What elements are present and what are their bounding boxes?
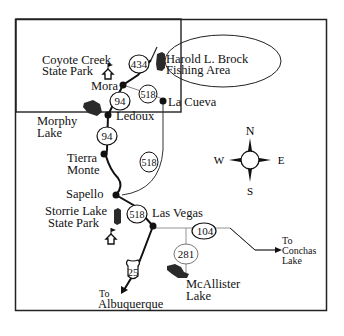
- label-storrie-2: State Park: [48, 217, 99, 229]
- albuquerque-arrow: [121, 286, 128, 294]
- harold-lake-icon: [156, 52, 165, 71]
- compass-w: W: [214, 154, 225, 166]
- shield-518-north: 518: [139, 85, 157, 103]
- label-ledoux: Ledoux: [116, 110, 154, 122]
- i25-line: [124, 226, 153, 290]
- compass-rose-icon: [229, 138, 271, 182]
- svg-text:94: 94: [115, 95, 127, 107]
- shield-518-south: 518: [127, 205, 147, 223]
- label-mora: Mora: [91, 80, 118, 92]
- compass-e: E: [278, 154, 285, 166]
- shield-281: 281: [174, 244, 198, 264]
- tierra-monte-dot: [101, 151, 108, 158]
- svg-text:281: 281: [178, 248, 195, 260]
- svg-text:434: 434: [131, 58, 148, 70]
- storrie-park-icon: [106, 228, 116, 244]
- label-to-conchas-3: Lake: [282, 256, 302, 266]
- label-harold-2: Fishing Area: [166, 64, 230, 76]
- shield-518-mid: 518: [140, 152, 158, 172]
- storrie-lake-icon: [114, 208, 121, 225]
- conchas-arrow: [275, 247, 282, 253]
- shield-94-north: 94: [110, 92, 130, 110]
- mora-dot: [120, 82, 127, 89]
- map-canvas: 434 518 94 94 518 518 104 281: [0, 0, 344, 336]
- svg-text:94: 94: [102, 130, 114, 142]
- svg-text:104: 104: [197, 225, 214, 237]
- la-cueva-dot: [160, 98, 167, 105]
- label-tierra-2: Monte: [67, 164, 100, 176]
- label-la-cueva: La Cueva: [168, 96, 216, 108]
- svg-text:518: 518: [130, 209, 145, 220]
- sapello-dot: [113, 192, 120, 199]
- label-sapello: Sapello: [66, 188, 104, 200]
- label-mcallister-2: Lake: [186, 290, 211, 302]
- morphy-lake-icon: [83, 100, 102, 116]
- svg-text:518: 518: [142, 157, 157, 168]
- las-vegas-dot: [150, 223, 157, 230]
- label-coyote-creek-2: State Park: [42, 65, 93, 77]
- label-las-vegas: Las Vegas: [152, 207, 203, 219]
- shield-434: 434: [129, 55, 149, 73]
- svg-text:25: 25: [128, 266, 140, 278]
- compass-s: S: [247, 185, 253, 197]
- label-to-albuquerque-2: Albuquerque: [98, 298, 163, 310]
- shield-104: 104: [192, 223, 216, 239]
- label-morphy-2: Lake: [37, 127, 62, 139]
- svg-text:518: 518: [141, 89, 156, 100]
- ledoux-dot: [105, 112, 112, 119]
- shield-i25: 25: [127, 260, 140, 279]
- map-graphics: 434 518 94 94 518 518 104 281: [0, 0, 344, 336]
- shield-94-south: 94: [97, 127, 117, 145]
- compass-n: N: [246, 124, 255, 138]
